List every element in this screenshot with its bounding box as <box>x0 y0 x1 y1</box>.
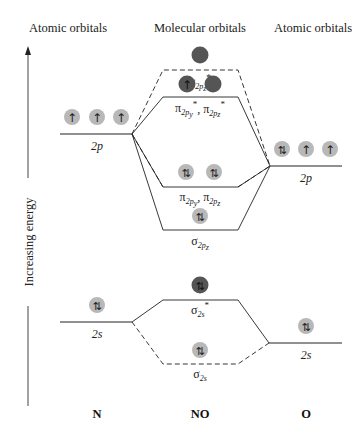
atom-label-o: O <box>301 407 311 421</box>
n-2s-level: ⇅ 2s <box>60 297 132 341</box>
empty-orbital-circle <box>192 47 209 64</box>
molecule-label-no: NO <box>191 407 210 421</box>
mo-label: σ2pz <box>191 234 209 252</box>
n-2s-label: 2s <box>92 327 103 341</box>
o-2s-level: ⇅ 2s <box>269 318 342 362</box>
mo-label: σ2s <box>193 367 207 383</box>
electron-pair-icon: ⇅ <box>195 211 204 224</box>
o-2p-level: ⇅ ↑ ↑ 2p <box>270 141 342 185</box>
mo-pi-2p: ⇅ ⇅ π2py,π2pz <box>178 164 222 208</box>
electron-pair-icon: ⇅ <box>181 167 190 180</box>
n-2p-label: 2p <box>91 139 103 153</box>
header-molecular-orbitals: Molecular orbitals <box>154 21 246 35</box>
electron-pair-icon: ⇅ <box>92 300 101 313</box>
mo-sigma-2s: ⇅ σ2s <box>192 342 208 383</box>
mo-sigma-2s-star: ⇅ σ2s* <box>191 277 210 320</box>
electron-up-icon: ↑ <box>92 111 102 125</box>
electron-pair-icon: ⇅ <box>195 345 204 358</box>
2p-correlation-lines <box>132 70 270 230</box>
header-atomic-orbitals-left: Atomic orbitals <box>29 21 107 35</box>
header-atomic-orbitals-right: Atomic orbitals <box>274 21 352 35</box>
n-2p-level: ↑ ↑ ↑ 2p <box>60 109 132 153</box>
electron-up-icon: ↑ <box>325 143 335 157</box>
energy-axis: Increasing energy <box>22 46 36 406</box>
electron-pair-icon: ⇅ <box>301 321 310 334</box>
electron-pair-icon: ⇅ <box>195 280 204 293</box>
electron-up-icon: ↑ <box>67 111 77 125</box>
o-2p-label: 2p <box>300 171 312 185</box>
electron-up-icon: ↑ <box>182 78 192 92</box>
mo-label: σ2s* <box>191 300 210 319</box>
o-2s-label: 2s <box>301 348 312 362</box>
mo-diagram: Atomic orbitals Molecular orbitals Atomi… <box>0 0 364 446</box>
mo-label: π2py*,π2pz* <box>175 99 225 120</box>
electron-pair-icon: ⇅ <box>209 167 218 180</box>
electron-up-icon: ↑ <box>116 111 126 125</box>
arrow-up-icon <box>25 46 31 55</box>
mo-label: π2py,π2pz <box>180 190 222 208</box>
axis-label: Increasing energy <box>22 197 36 287</box>
atom-label-n: N <box>92 407 101 421</box>
empty-orbital-circle <box>205 76 222 93</box>
electron-pair-icon: ⇅ <box>277 144 286 157</box>
electron-up-icon: ↑ <box>301 143 311 157</box>
